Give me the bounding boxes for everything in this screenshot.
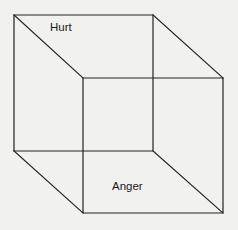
necker-cube-diagram: Hurt Anger [0,0,238,230]
edge-top-right [153,15,223,78]
label-anger: Anger [112,181,143,193]
edge-top-left [14,15,83,78]
label-hurt: Hurt [50,22,72,34]
cube-wireframe [0,0,238,230]
edge-bottom-left [14,151,83,213]
edge-bottom-right [153,151,223,213]
